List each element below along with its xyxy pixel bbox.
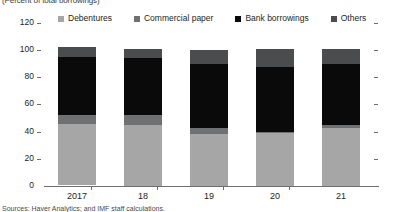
x-tick-3: [289, 186, 290, 190]
bar-segment-others-20: [256, 49, 294, 67]
legend-item-debentures: Debentures: [58, 14, 112, 23]
y-tick-20: [37, 159, 41, 160]
x-axis-line: [44, 186, 379, 187]
bar-segment-commercial-paper-18: [124, 115, 162, 125]
legend-label-commercial-paper: Commercial paper: [144, 14, 213, 23]
legend-item-bank-borrowings: Bank borrowings: [235, 14, 308, 23]
y-axis-label-80: 80: [8, 72, 34, 81]
y-axis-label-120: 120: [8, 18, 34, 27]
y-tick-100: [37, 50, 41, 51]
bar-segment-debentures-21: [322, 128, 360, 186]
bar-21: [322, 49, 360, 186]
y-axis-label-60: 60: [8, 99, 34, 108]
bar-18: [124, 49, 162, 186]
legend-swatch-bank-borrowings: [235, 16, 241, 22]
bar-segment-commercial-paper-19: [190, 128, 228, 135]
legend-item-commercial-paper: Commercial paper: [134, 14, 213, 23]
y-tick-120: [37, 23, 41, 24]
bar-segment-bank-borrowings-18: [124, 58, 162, 115]
plot-area: [44, 23, 378, 186]
bar-segment-bank-borrowings-19: [190, 64, 228, 128]
bar-20: [256, 49, 294, 186]
bar-19: [190, 50, 228, 186]
chart-figure: (Percent of total borrowings) Debentures…: [0, 0, 399, 212]
legend-swatch-commercial-paper: [134, 16, 140, 22]
y-axis-label-100: 100: [8, 45, 34, 54]
x-axis-label-19: 19: [184, 191, 234, 201]
x-tick-0: [91, 186, 92, 190]
x-axis-label-18: 18: [118, 191, 168, 201]
bar-segment-bank-borrowings-20: [256, 67, 294, 132]
bar-segment-commercial-paper-2017: [58, 115, 96, 125]
bar-segment-debentures-2017: [58, 124, 96, 185]
y-tick-60: [37, 104, 41, 105]
y-tick-40: [37, 132, 41, 133]
y-axis-label-40: 40: [8, 127, 34, 136]
legend-item-others: Others: [331, 14, 367, 23]
chart-legend: Debentures Commercial paper Bank borrowi…: [58, 14, 366, 23]
chart-source: Sources: Haver Analytics; and IMF staff …: [2, 205, 165, 212]
bar-segment-debentures-18: [124, 125, 162, 186]
legend-label-bank-borrowings: Bank borrowings: [245, 14, 308, 23]
bar-segment-others-19: [190, 50, 228, 64]
y-axis-label-0: 0: [8, 181, 34, 190]
legend-swatch-debentures: [58, 16, 64, 22]
x-axis-label-21: 21: [316, 191, 366, 201]
x-tick-1: [157, 186, 158, 190]
bar-segment-debentures-20: [256, 133, 294, 186]
bar-segment-debentures-19: [190, 134, 228, 186]
y-tick-80: [37, 77, 41, 78]
legend-label-debentures: Debentures: [68, 14, 112, 23]
y-axis-label-20: 20: [8, 154, 34, 163]
legend-swatch-others: [331, 16, 337, 22]
bar-segment-bank-borrowings-21: [322, 64, 360, 125]
bar-2017: [58, 47, 96, 186]
bar-segment-others-21: [322, 49, 360, 64]
chart-subtitle: (Percent of total borrowings): [2, 0, 100, 5]
bar-segment-others-2017: [58, 47, 96, 57]
x-axis-label-2017: 2017: [52, 191, 102, 201]
x-tick-2: [223, 186, 224, 190]
x-axis-label-20: 20: [250, 191, 300, 201]
bar-segment-bank-borrowings-2017: [58, 57, 96, 115]
legend-label-others: Others: [341, 14, 367, 23]
bar-segment-others-18: [124, 49, 162, 59]
